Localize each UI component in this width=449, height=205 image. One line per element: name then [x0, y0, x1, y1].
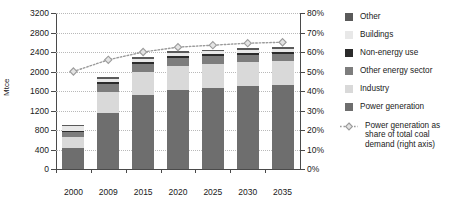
y-axis-left-tick-label: 3200	[30, 8, 49, 18]
y-axis-left-tick-label: 1200	[30, 106, 49, 116]
y-tick-right	[300, 72, 305, 73]
y-axis-left-tick-label: 400	[35, 145, 49, 155]
coal-demand-stacked-bar-chart: Mtce 0400800120016002000240028003200 0%1…	[0, 0, 449, 205]
share-line-marker	[279, 39, 286, 46]
x-axis-tick-label: 2030	[238, 187, 257, 197]
legend-item-label: Other	[360, 12, 380, 22]
legend-item[interactable]: Other	[345, 12, 449, 22]
y-tick-right	[300, 169, 305, 170]
legend-item[interactable]: Non-energy use	[345, 48, 449, 58]
y-tick-right	[300, 33, 305, 34]
legend-swatch-icon	[345, 103, 353, 111]
y-tick-right	[300, 130, 305, 131]
legend-item[interactable]: Power generation	[345, 102, 449, 112]
x-tick	[195, 169, 196, 173]
share-line-series	[56, 13, 300, 169]
legend-item-label: Other energy sector	[360, 66, 432, 76]
x-tick	[126, 169, 127, 173]
y-axis-right-tick-label: 20%	[307, 125, 324, 135]
legend-line-marker-icon	[345, 122, 353, 130]
legend-swatch-icon	[345, 67, 353, 75]
x-tick	[265, 169, 266, 173]
y-axis-left-tick-label: 800	[35, 125, 49, 135]
legend-item-label: Power generation as share of total coal …	[365, 121, 449, 150]
y-tick-right	[300, 91, 305, 92]
x-tick	[161, 169, 162, 173]
y-tick-right	[300, 150, 305, 151]
legend-item-label: Power generation	[360, 102, 424, 112]
legend-item-label: Non-energy use	[360, 48, 418, 58]
x-tick	[56, 169, 57, 173]
legend-item-label: Buildings	[360, 30, 393, 40]
legend-swatch-icon	[345, 13, 353, 21]
legend-item[interactable]: Buildings	[345, 30, 449, 40]
y-axis-right-tick-label: 10%	[307, 145, 324, 155]
share-line-marker	[70, 68, 77, 75]
share-line-marker	[244, 40, 251, 47]
legend-swatch-icon	[345, 49, 353, 57]
legend-item-label: Industry	[360, 84, 389, 94]
y-tick-right	[300, 13, 305, 14]
x-axis-tick-label: 2025	[203, 187, 222, 197]
legend-swatch-icon	[345, 31, 353, 39]
share-line-marker	[209, 42, 216, 49]
x-tick	[91, 169, 92, 173]
y-axis-right-tick-label: 0%	[307, 164, 319, 174]
legend-item[interactable]: Other energy sector	[345, 66, 449, 76]
x-axis-tick-label: 2000	[64, 187, 83, 197]
y-axis-right-tick-label: 80%	[307, 8, 324, 18]
share-line-marker	[140, 48, 147, 55]
x-axis-tick-label: 2020	[169, 187, 188, 197]
plot-area: 0400800120016002000240028003200 0%10%20%…	[56, 13, 300, 169]
x-axis-tick-label: 2015	[134, 187, 153, 197]
y-axis-left-tick-label: 2800	[30, 28, 49, 38]
legend-item-line-series[interactable]: Power generation as share of total coal …	[345, 121, 449, 150]
y-axis-right-tick-label: 50%	[307, 67, 324, 77]
y-axis-right-tick-label: 70%	[307, 28, 324, 38]
share-line-marker	[105, 56, 112, 63]
x-axis-tick-label: 2009	[99, 187, 118, 197]
y-tick-right	[300, 52, 305, 53]
y-axis-left-tick-label: 0	[44, 164, 49, 174]
y-axis-right-tick-label: 30%	[307, 106, 324, 116]
x-axis-tick-label: 2035	[273, 187, 292, 197]
y-axis-right-tick-label: 40%	[307, 86, 324, 96]
share-line-marker	[174, 44, 181, 51]
y-axis-left-tick-label: 2000	[30, 67, 49, 77]
y-axis-left-tick-label: 2400	[30, 47, 49, 57]
legend-item[interactable]: Industry	[345, 84, 449, 94]
y-axis-left-tick-label: 1600	[30, 86, 49, 96]
y-axis-right-tick-label: 60%	[307, 47, 324, 57]
legend-swatch-icon	[345, 85, 353, 93]
x-tick	[230, 169, 231, 173]
y-tick-right	[300, 111, 305, 112]
chart-legend: OtherBuildingsNon-energy useOther energy…	[345, 12, 449, 158]
y-axis-title: Mtce	[2, 79, 11, 96]
